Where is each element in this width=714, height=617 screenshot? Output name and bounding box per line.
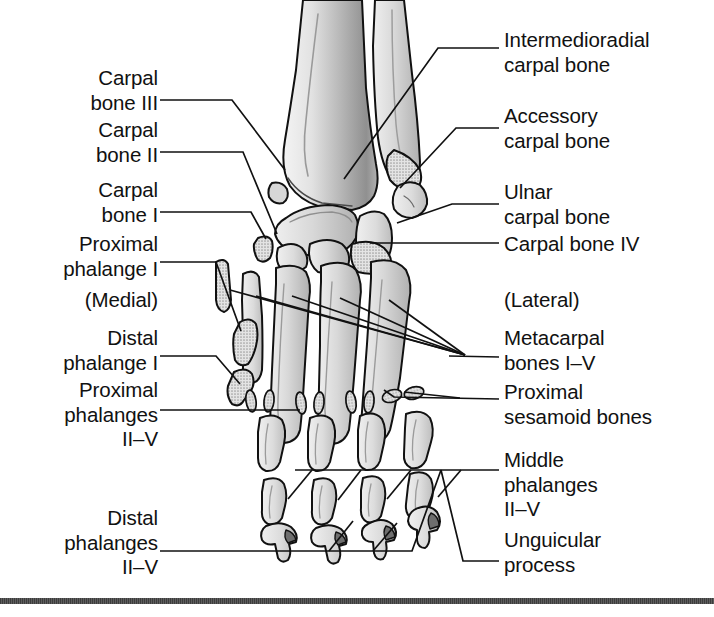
label-accessory-carpal-bone: Accessory carpal bone (504, 104, 714, 153)
anatomical-figure: Carpal bone III Carpal bone II Carpal bo… (0, 0, 714, 617)
label-distal-phalange-i: Distal phalange I (10, 326, 158, 375)
leader-carpal-bone-ii (160, 152, 277, 234)
label-carpal-bone-ii: Carpal bone II (10, 118, 158, 167)
leader-carpal-bone-iii (160, 100, 285, 170)
leader-middle-phalange-2 (338, 470, 361, 500)
label-intermedioradial-carpal-bone: Intermedioradial carpal bone (504, 28, 714, 77)
label-metacarpal-bones-i-v: Metacarpal bones I–V (504, 326, 714, 375)
label-medial: (Medial) (10, 288, 158, 313)
label-lateral: (Lateral) (504, 288, 714, 313)
label-proximal-sesamoid-bones: Proximal sesamoid bones (504, 380, 714, 429)
bone-carpal-i (254, 237, 273, 262)
bone-radius (283, 0, 377, 210)
label-carpal-bone-i: Carpal bone I (10, 178, 158, 227)
label-middle-phalanges-ii-v: Middle phalanges II–V (504, 448, 714, 522)
label-proximal-phalanges-ii-v: Proximal phalanges II–V (10, 378, 158, 452)
label-ulnar-carpal-bone: Ulnar carpal bone (504, 180, 714, 229)
bone-radius-medial-process (268, 183, 287, 204)
label-carpal-bone-iv: Carpal bone IV (504, 232, 714, 257)
leader-middle-phalange-1 (288, 470, 312, 499)
bottom-divider-rule (0, 598, 714, 604)
leader-distal-phalange-i (160, 356, 240, 384)
leader-carpal-bone-i (160, 212, 266, 239)
label-unguicular-process: Unguicular process (504, 528, 714, 577)
label-proximal-phalange-i: Proximal phalange I (10, 232, 158, 281)
label-carpal-bone-iii: Carpal bone III (10, 66, 158, 115)
label-distal-phalanges-ii-v: Distal phalanges II–V (10, 506, 158, 580)
leader-metacarpal-stub (449, 356, 499, 357)
